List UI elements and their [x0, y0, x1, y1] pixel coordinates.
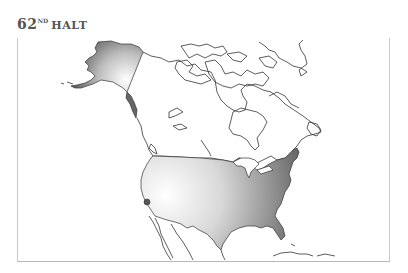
page-title: 62NDHALT: [17, 13, 88, 34]
bahamas: [291, 244, 295, 246]
caribbean-islands: [273, 252, 335, 256]
halt-title: HALT: [51, 19, 87, 32]
north-america-map: [18, 38, 389, 261]
halt-number: 62: [17, 16, 37, 32]
great-bear-lake: [169, 108, 183, 118]
alaska-panhandle: [126, 92, 137, 118]
arctic-islands: [175, 44, 277, 88]
aleutian-islands: [61, 82, 73, 84]
ordinal-suffix: ND: [37, 17, 48, 24]
contiguous-us-region: [141, 148, 299, 250]
canada-outline: [137, 52, 321, 164]
great-slave-lake: [173, 124, 187, 130]
greenland: [259, 40, 307, 76]
baffin-coast: [269, 92, 299, 108]
location-marker-icon[interactable]: [144, 199, 150, 205]
page: 62NDHALT: [0, 0, 408, 273]
lake-winnipeg: [201, 140, 211, 156]
alaska-region: [71, 41, 143, 92]
map-frame: [17, 38, 390, 262]
hudson-bay: [229, 108, 267, 150]
